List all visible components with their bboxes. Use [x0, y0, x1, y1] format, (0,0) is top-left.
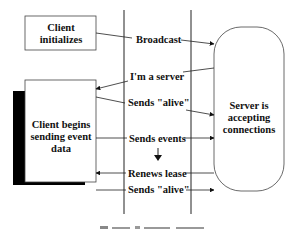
message-label: Sends "alive" [128, 97, 190, 108]
message-label: Sends "alive" [128, 184, 190, 195]
message-im-a-server: I'm a server [96, 68, 214, 89]
client-events-line-1: Client begins [32, 119, 91, 130]
message-label: Broadcast [136, 34, 182, 45]
server-line-2: accepting [228, 112, 271, 123]
client-initializes-line-1: Client [47, 22, 75, 33]
message-label: I'm a server [130, 71, 185, 82]
server-line-3: connections [223, 124, 276, 135]
server-box: Server is accepting connections [214, 27, 284, 191]
client-events-line-3: data [51, 143, 72, 154]
figure-caption-cropped [100, 226, 204, 229]
message-sends-alive-2: Sends "alive" [96, 184, 214, 195]
client-events-line-2: sending event [31, 131, 92, 142]
message-label: Renews lease [128, 168, 187, 179]
client-initializes-box: Client initializes [25, 16, 96, 50]
message-sends-alive-1: Sends "alive" [96, 97, 214, 115]
message-renews-lease: Renews lease [96, 168, 214, 179]
message-broadcast: Broadcast [96, 33, 214, 45]
protocol-diagram: Client initializes Client begins sending… [0, 0, 290, 229]
client-initializes-line-2: initializes [40, 34, 83, 45]
client-events-box: Client begins sending event data [13, 80, 96, 185]
message-sends-events: Sends events [96, 133, 214, 144]
message-label: Sends events [129, 133, 186, 144]
server-line-1: Server is [229, 100, 268, 111]
down-arrow-icon [154, 148, 162, 161]
